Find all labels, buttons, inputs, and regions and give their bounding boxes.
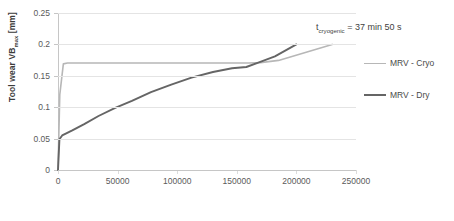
- gridline-y-0.2: [58, 44, 356, 45]
- gridline-y-0.25: [58, 13, 356, 14]
- x-tick-label-250000: 250000: [326, 176, 386, 186]
- y-tick-label-0.05: 0.05: [0, 134, 50, 144]
- x-tick-label-150000: 150000: [207, 176, 267, 186]
- series-lines: [58, 13, 356, 170]
- x-tick-label-50000: 50000: [88, 176, 148, 186]
- y-axis-title: Tool wear VBmax [mm]: [7, 0, 17, 132]
- gridline-y-0.1: [58, 107, 356, 108]
- legend-label: MRV - Dry: [390, 90, 430, 100]
- x-tick-mark-250000: [356, 170, 357, 174]
- gridline-y-0: [58, 170, 356, 171]
- x-tick-label-0: 0: [28, 176, 88, 186]
- y-tick-label-0.25: 0.25: [0, 8, 50, 18]
- legend-swatch-icon: [364, 94, 386, 96]
- x-tick-label-100000: 100000: [147, 176, 207, 186]
- tool-wear-chart: Tool wear VBmax [mm] 00.050.10.150.20.25…: [0, 0, 454, 221]
- legend-swatch-icon: [364, 63, 386, 64]
- y-tick-label-0.1: 0.1: [0, 102, 50, 112]
- cryogenic-time-annotation: tcryogenic = 37 min 50 s: [316, 22, 401, 32]
- y-tick-label-0: 0: [0, 165, 50, 175]
- gridline-y-0.15: [58, 76, 356, 77]
- annotation-value: = 37 min 50 s: [345, 22, 402, 32]
- legend-item-mrv-dry[interactable]: MRV - Dry: [364, 90, 430, 100]
- legend-label: MRV - Cryo: [390, 58, 434, 68]
- x-tick-label-200000: 200000: [266, 176, 326, 186]
- y-tick-label-0.2: 0.2: [0, 39, 50, 49]
- gridline-y-0.05: [58, 139, 356, 140]
- legend-item-mrv-cryo[interactable]: MRV - Cryo: [364, 58, 434, 68]
- annotation-subscript: cryogenic: [319, 27, 345, 34]
- y-tick-label-0.15: 0.15: [0, 71, 50, 81]
- plot-area: [58, 13, 356, 170]
